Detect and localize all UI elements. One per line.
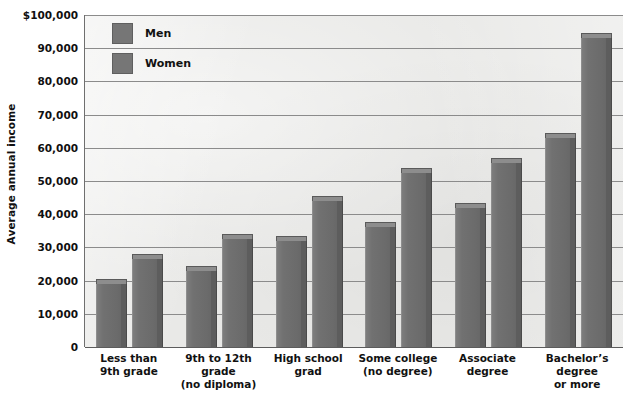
x-axis-label-line: grade [174, 365, 264, 378]
x-axis-label-2: High schoolgrad [263, 352, 353, 378]
x-axis-label-5: Bachelor’sdegreeor more [532, 352, 622, 391]
bar-women-0 [132, 259, 163, 347]
x-axis-label-line: degree [443, 365, 533, 378]
y-axis-tick-20000: 20,000 [20, 275, 78, 287]
y-axis-tick-100000: $100,000 [20, 9, 78, 21]
bar-side-face [247, 239, 252, 347]
x-axis-category-labels: Less than9th grade9th to 12thgrade(no di… [84, 352, 622, 403]
bar-side-face [301, 241, 306, 347]
y-axis-title: Average annual income [0, 0, 22, 347]
x-axis-label-line: Less than [84, 352, 174, 365]
x-axis-label-line: 9th to 12th [174, 352, 264, 365]
bar-men-5 [545, 138, 576, 347]
bar-chart: Average annual income $100,00090,00080,0… [0, 0, 634, 403]
legend-item-women: Women [112, 50, 232, 77]
bar-side-face [570, 138, 575, 347]
x-axis-label-line: 9th grade [84, 365, 174, 378]
legend: MenWomen [112, 20, 232, 80]
x-axis-label-0: Less than9th grade [84, 352, 174, 378]
x-axis-label-4: Associatedegree [443, 352, 533, 378]
legend-label-women: Women [145, 57, 191, 70]
bar-men-3 [365, 227, 396, 347]
bar-women-2 [312, 201, 343, 347]
x-axis-label-line: Associate [443, 352, 533, 365]
x-axis-label-line: Some college [353, 352, 443, 365]
bar-women-5 [581, 38, 612, 347]
y-axis-tick-80000: 80,000 [20, 75, 78, 87]
bar-men-2 [276, 241, 307, 347]
bar-side-face [426, 173, 431, 347]
bar-women-3 [401, 173, 432, 347]
x-axis-label-1: 9th to 12thgrade(no diploma) [174, 352, 264, 391]
bar-side-face [516, 163, 521, 347]
bar-men-0 [96, 284, 127, 347]
y-axis-tick-labels: $100,00090,00080,00070,00060,00050,00040… [20, 0, 82, 362]
legend-label-men: Men [145, 27, 171, 40]
bar-side-face [390, 227, 395, 347]
bar-side-face [211, 271, 216, 347]
bar-side-face [606, 38, 611, 347]
bar-men-4 [455, 208, 486, 347]
x-axis-label-line: degree [532, 365, 622, 378]
x-axis-label-line: (no diploma) [174, 378, 264, 391]
y-axis-tick-60000: 60,000 [20, 142, 78, 154]
bar-side-face [121, 284, 126, 347]
x-axis-label-line: grad [263, 365, 353, 378]
y-axis-tick-10000: 10,000 [20, 308, 78, 320]
x-axis-label-line: (no degree) [353, 365, 443, 378]
y-axis-tick-40000: 40,000 [20, 208, 78, 220]
y-axis-title-label: Average annual income [5, 103, 17, 244]
legend-item-men: Men [112, 20, 232, 47]
y-axis-tick-30000: 30,000 [20, 241, 78, 253]
legend-swatch-women [112, 53, 133, 74]
x-axis-label-3: Some college(no degree) [353, 352, 443, 378]
bar-women-1 [222, 239, 253, 347]
x-axis-label-line: or more [532, 378, 622, 391]
x-axis-label-line: High school [263, 352, 353, 365]
y-axis-tick-50000: 50,000 [20, 175, 78, 187]
y-axis-tick-90000: 90,000 [20, 42, 78, 54]
bar-side-face [337, 201, 342, 347]
y-axis-tick-0: 0 [20, 341, 78, 353]
bar-side-face [157, 259, 162, 347]
x-axis-label-line: Bachelor’s [532, 352, 622, 365]
bar-men-1 [186, 271, 217, 347]
y-axis-tick-70000: 70,000 [20, 109, 78, 121]
bar-side-face [480, 208, 485, 347]
axis-baseline [85, 347, 623, 348]
bar-women-4 [491, 163, 522, 347]
legend-swatch-men [112, 23, 133, 44]
